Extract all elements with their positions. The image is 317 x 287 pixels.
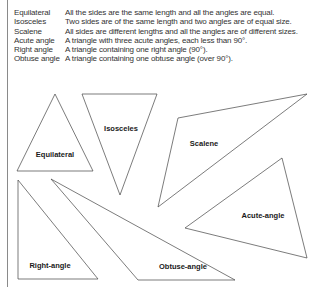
obtuse-shape	[51, 179, 235, 280]
obtuse-triangle: Obtuse-angle	[51, 179, 235, 280]
equilateral-triangle: Equilateral	[17, 94, 93, 171]
isosceles-triangle: Isosceles	[82, 94, 157, 195]
obtuse-label: Obtuse-angle	[159, 262, 207, 271]
equilateral-shape	[17, 94, 93, 171]
isosceles-label: Isosceles	[104, 124, 138, 133]
equilateral-label: Equilateral	[36, 150, 74, 159]
triangle-types-diagram: Equilateral Isosceles Scalene Acute-angl…	[0, 0, 317, 287]
scalene-triangle: Scalene	[158, 94, 307, 207]
acute-label: Acute-angle	[242, 211, 285, 220]
right-triangle: Right-angle	[18, 180, 98, 279]
scalene-label: Scalene	[190, 139, 218, 148]
right-label: Right-angle	[29, 261, 70, 270]
scalene-shape	[158, 94, 307, 207]
isosceles-shape	[82, 94, 157, 195]
